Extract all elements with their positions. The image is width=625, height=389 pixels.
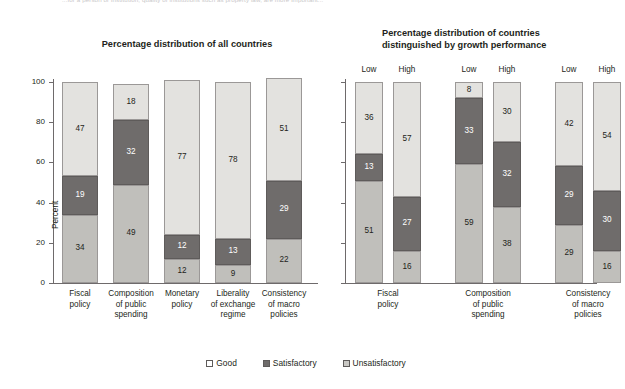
bar-segment-sat[interactable]: 19	[62, 176, 98, 214]
y-tick	[341, 162, 345, 163]
bar-segment-unsat[interactable]: 12	[164, 259, 200, 283]
bar-segment-good[interactable]: 77	[164, 80, 200, 235]
x-category-label-line: Consistency	[543, 289, 625, 300]
bar-segment-sat[interactable]: 30	[593, 191, 621, 251]
bar-segment-good[interactable]: 30	[493, 82, 521, 142]
bar-segment-unsat[interactable]: 49	[113, 185, 149, 283]
bar-segment-good[interactable]: 57	[393, 82, 421, 197]
bar-segment-good[interactable]: 47	[62, 82, 98, 176]
bar-segment-unsat[interactable]: 9	[215, 265, 251, 283]
bar-segment-sat[interactable]: 13	[355, 154, 383, 180]
stacked-bar[interactable]: 341947	[62, 79, 98, 283]
bar-segment-unsat[interactable]: 34	[62, 215, 98, 283]
x-category-label: Fiscalpolicy	[343, 289, 433, 310]
y-tick	[49, 162, 53, 163]
bar-segment-value: 42	[564, 120, 573, 128]
x-category-label: Fiscalpolicy	[53, 289, 107, 310]
bar-segment-good[interactable]: 51	[266, 78, 302, 181]
bar-segment-value: 51	[364, 227, 373, 235]
growth-label-high: High	[487, 65, 527, 74]
stacked-bar[interactable]: 163054	[593, 79, 621, 283]
bar-segment-unsat[interactable]: 16	[593, 251, 621, 283]
stacked-bar[interactable]: 121277	[164, 79, 200, 283]
x-category-label-line: Fiscal	[343, 289, 433, 300]
bar-segment-value: 19	[75, 191, 84, 199]
bar-segment-value: 16	[602, 263, 611, 271]
bar-segment-sat[interactable]: 29	[555, 166, 583, 224]
bar-segment-value: 38	[502, 240, 511, 248]
bar-segment-unsat[interactable]: 22	[266, 239, 302, 283]
stacked-bar[interactable]: 292942	[555, 79, 583, 283]
bar-segment-good[interactable]: 42	[555, 82, 583, 166]
right-chart-title-line1: Percentage distribution of countries	[382, 28, 592, 40]
x-category-label-line: policy	[53, 300, 107, 311]
stacked-bar[interactable]: 493218	[113, 79, 149, 283]
x-category-label-line: policy	[155, 300, 209, 311]
stacked-bar[interactable]: 162757	[393, 79, 421, 283]
legend-item-unsat[interactable]: Unsatisfactory	[343, 358, 406, 368]
left-chart-title: Percentage distribution of all countries	[52, 39, 322, 51]
x-category-label-line: Monetary	[155, 289, 209, 300]
bar-segment-sat[interactable]: 13	[215, 239, 251, 265]
x-category-label-line: Composition	[443, 289, 533, 300]
legend-item-sat[interactable]: Satisfactory	[263, 358, 317, 368]
bar-segment-value: 54	[602, 132, 611, 140]
x-category-label: Consistencyof macropolicies	[257, 289, 311, 321]
bar-segment-value: 29	[279, 205, 288, 213]
bar-segment-value: 36	[364, 114, 373, 122]
bar-segment-unsat[interactable]: 16	[393, 251, 421, 283]
bar-segment-good[interactable]: 54	[593, 82, 621, 191]
bar-segment-value: 12	[177, 267, 186, 275]
bar-segment-value: 29	[564, 249, 573, 257]
stacked-bar[interactable]: 91378	[215, 79, 251, 283]
bar-segment-value: 47	[75, 125, 84, 133]
stacked-bar[interactable]: 383230	[493, 79, 521, 283]
bar-segment-sat[interactable]: 32	[493, 142, 521, 206]
y-tick	[341, 82, 345, 83]
legend-swatch-unsat	[343, 360, 350, 367]
bar-segment-value: 27	[402, 219, 411, 227]
legend-swatch-sat	[263, 360, 270, 367]
bar-segment-sat[interactable]: 27	[393, 197, 421, 251]
y-tick-label: 20	[19, 238, 45, 247]
right-y-axis	[345, 79, 346, 284]
growth-label-low: Low	[549, 65, 589, 74]
bar-segment-good[interactable]: 78	[215, 82, 251, 239]
legend-label: Good	[216, 358, 237, 368]
bar-segment-good[interactable]: 8	[455, 82, 483, 98]
bar-segment-value: 29	[564, 191, 573, 199]
x-category-label-line: policies	[257, 310, 311, 321]
x-category-label: Liberalityof exchangeregime	[206, 289, 260, 321]
x-category-label-line: spending	[104, 310, 158, 321]
x-category-label-line: policy	[343, 300, 433, 311]
growth-label-low: Low	[449, 65, 489, 74]
bar-segment-unsat[interactable]: 29	[555, 225, 583, 283]
legend-item-good[interactable]: Good	[206, 358, 237, 368]
y-tick	[49, 82, 53, 83]
bar-segment-value: 8	[467, 86, 472, 94]
bar-segment-value: 13	[364, 163, 373, 171]
bar-segment-value: 49	[126, 229, 135, 237]
bar-segment-unsat[interactable]: 59	[455, 164, 483, 283]
stacked-bar[interactable]: 511336	[355, 79, 383, 283]
stacked-bar[interactable]: 222951	[266, 79, 302, 283]
left-chart-plot-area: Percent 020406080100 3419474932181212779…	[53, 79, 318, 284]
bar-segment-sat[interactable]: 32	[113, 120, 149, 184]
y-tick	[49, 203, 53, 204]
bar-segment-value: 30	[602, 216, 611, 224]
stacked-bar[interactable]: 59338	[455, 79, 483, 283]
y-tick	[341, 203, 345, 204]
bar-segment-unsat[interactable]: 51	[355, 181, 383, 284]
legend: GoodSatisfactoryUnsatisfactory	[0, 358, 612, 368]
bar-segment-good[interactable]: 36	[355, 82, 383, 154]
x-category-label: Monetarypolicy	[155, 289, 209, 310]
growth-label-high: High	[587, 65, 625, 74]
x-category-label-line: of public	[443, 300, 533, 311]
bar-segment-sat[interactable]: 33	[455, 98, 483, 164]
bar-segment-unsat[interactable]: 38	[493, 207, 521, 283]
bar-segment-sat[interactable]: 29	[266, 181, 302, 239]
bar-segment-sat[interactable]: 12	[164, 235, 200, 259]
bar-segment-good[interactable]: 18	[113, 84, 149, 120]
x-category-label-line: of public	[104, 300, 158, 311]
